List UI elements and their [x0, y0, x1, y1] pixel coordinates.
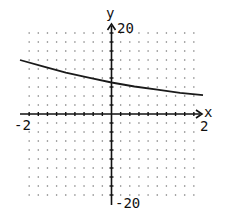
x-axis-label: x: [204, 105, 212, 119]
x-max-label: 2: [200, 119, 208, 133]
y-min-label: -20: [115, 196, 140, 210]
plot-area: [0, 0, 225, 224]
y-max-label: 20: [117, 21, 134, 35]
x-min-label: -2: [14, 118, 31, 132]
y-axis-label: y: [106, 6, 114, 20]
